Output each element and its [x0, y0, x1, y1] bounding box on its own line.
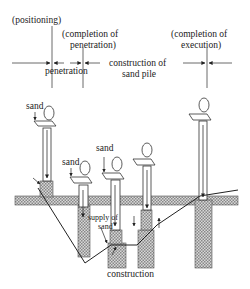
- label-construction-1: construction of: [109, 58, 166, 68]
- label-completion-execution-1: (completion of: [171, 29, 227, 39]
- label-sand-3: sand: [96, 143, 113, 153]
- label-construction: construction: [107, 269, 154, 279]
- label-sand-2: sand: [62, 157, 79, 167]
- label-completion-penetration-1: (completion of: [62, 29, 118, 39]
- label-sand-1: sand: [26, 101, 43, 111]
- sand-columns: [40, 181, 212, 268]
- label-completion-execution-2: execution): [181, 40, 221, 50]
- label-completion-penetration-2: penetration): [70, 40, 116, 50]
- label-construction-2: sand pile: [122, 69, 156, 79]
- label-positioning: (positioning): [12, 15, 61, 25]
- casing-pipes: [34, 98, 211, 230]
- label-penetration: penetration: [45, 66, 88, 76]
- label-supply-2: sand: [98, 222, 113, 232]
